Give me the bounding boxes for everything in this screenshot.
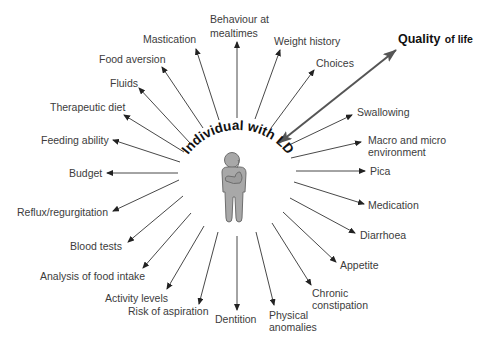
label-blood-tests: Blood tests	[70, 240, 122, 252]
label-macro-micro-environment: Macro and micro environment	[368, 134, 478, 158]
arrow-swallowing	[287, 115, 352, 146]
arrow-appetite	[283, 212, 336, 262]
arrow-mastication	[196, 49, 219, 120]
label-choices: Choices	[316, 57, 354, 69]
label-activity-levels: Activity levels	[105, 292, 168, 304]
label-reflux-regurgitation: Reflux/regurgitation	[17, 206, 108, 218]
arrow-fluids	[139, 88, 190, 143]
label-analysis-of-food-intake: Analysis of food intake	[40, 270, 145, 282]
label-dentition: Dentition	[215, 313, 256, 325]
label-food-aversion: Food aversion	[99, 53, 166, 65]
arrow-reflux-regurgitation	[113, 180, 179, 211]
label-diarrhoea: Diarrhoea	[360, 229, 406, 241]
thinking-person-icon	[222, 153, 246, 223]
label-medication: Medication	[368, 199, 419, 211]
label-pica: Pica	[370, 165, 390, 177]
label-risk-of-aspiration: Risk of aspiration	[128, 305, 209, 317]
quality-of-life-rest: of life	[445, 33, 473, 45]
label-physical-anomalies: Physical anomalies	[269, 309, 325, 333]
label-chronic-constipation: Chronic constipation	[312, 287, 374, 311]
arrow-macro-micro-environment	[291, 142, 361, 158]
label-therapeutic-diet: Therapeutic diet	[50, 101, 125, 113]
arrow-risk-of-aspiration	[199, 232, 218, 304]
arrow-medication	[294, 182, 364, 204]
label-weight-history: Weight history	[274, 35, 340, 47]
arrow-activity-levels	[167, 226, 204, 289]
label-swallowing: Swallowing	[357, 106, 410, 118]
label-budget: Budget	[69, 167, 102, 179]
label-quality-of-life: Quality of life	[398, 29, 473, 47]
center-label: Individual with LD	[179, 118, 297, 157]
arrow-physical-anomalies	[256, 232, 274, 305]
arrow-blood-tests	[128, 196, 183, 242]
quality-of-life-main: Quality	[398, 32, 440, 46]
label-fluids: Fluids	[110, 77, 138, 89]
label-feeding-ability: Feeding ability	[41, 134, 109, 146]
label-behaviour-at-mealtimes: Behaviour at mealtimes	[210, 12, 278, 40]
label-mastication: Mastication	[143, 33, 196, 45]
arrow-weight-history	[255, 50, 280, 119]
label-appetite: Appetite	[340, 259, 379, 271]
